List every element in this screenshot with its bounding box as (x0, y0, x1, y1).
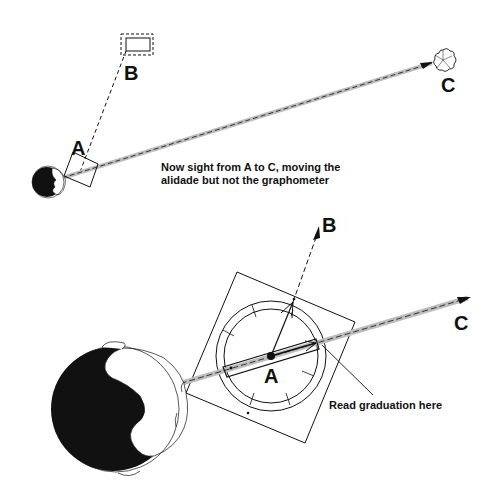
callout-line (322, 345, 373, 395)
arm-toward-b (271, 298, 295, 356)
center-point-a (267, 352, 275, 360)
diagram-canvas: B C A (0, 0, 485, 499)
label-b-bottom: B (322, 214, 336, 236)
tree-c-icon (434, 49, 456, 72)
caption-line-2: alidade but not the graphometer (161, 174, 340, 187)
sightline-a-b-bottom (293, 232, 318, 302)
label-b-top: B (124, 62, 138, 84)
reference-dot (247, 412, 250, 415)
sightline-a-b-top (80, 51, 126, 172)
label-c-bottom: C (454, 312, 468, 334)
label-c-top: C (441, 74, 455, 96)
observer-head-large-icon (51, 342, 188, 476)
caption-line-1: Now sight from A to C, moving the (161, 161, 340, 174)
label-a-top: A (71, 137, 85, 159)
arrowhead-b (313, 226, 320, 240)
bottom-panel: B C A (51, 214, 471, 476)
sightline-a-c-bottom (172, 297, 471, 386)
callout-read-graduation: Read graduation here (329, 399, 442, 412)
label-a-bottom: A (264, 365, 278, 387)
top-caption: Now sight from A to C, moving the alidad… (161, 161, 340, 187)
observer-head-small-icon (32, 166, 66, 198)
